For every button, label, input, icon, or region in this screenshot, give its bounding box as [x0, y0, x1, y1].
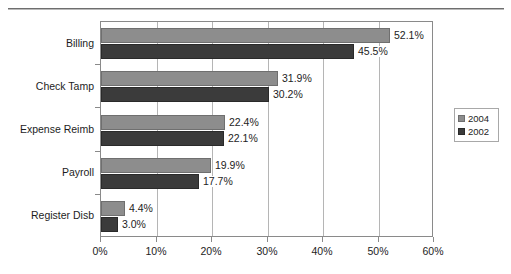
- bar-2002-check-tamp: [101, 87, 269, 102]
- x-axis-label: 0%: [92, 245, 107, 257]
- legend-label-2004: 2004: [468, 114, 489, 124]
- category-label-expense-reimb: Expense Reimb: [20, 123, 94, 135]
- legend-swatch-2002: [458, 128, 465, 135]
- category-axis-tick: [95, 107, 100, 108]
- category-label-billing: Billing: [66, 37, 94, 49]
- x-axis-tick: [433, 237, 434, 242]
- category-label-register-disb: Register Disb: [31, 209, 94, 221]
- x-axis-tick: [211, 237, 212, 242]
- chart-legend: 2004 2002: [454, 108, 499, 142]
- bar-2004-expense-reimb: [101, 115, 225, 130]
- x-axis-label: 40%: [311, 245, 332, 257]
- x-axis-label: 20%: [200, 245, 221, 257]
- x-axis-label: 30%: [256, 245, 277, 257]
- plot-area: 52.1%45.5%31.9%30.2%22.4%22.1%19.9%17.7%…: [100, 21, 433, 237]
- bar-value-label: 30.2%: [272, 89, 304, 100]
- category-label-check-tamp: Check Tamp: [36, 80, 94, 92]
- bar-value-label: 22.1%: [227, 133, 259, 144]
- bar-2004-check-tamp: [101, 71, 278, 86]
- bar-group: 31.9%30.2%: [101, 71, 432, 102]
- bar-value-label: 31.9%: [281, 73, 313, 84]
- x-axis-tick: [156, 237, 157, 242]
- bar-2002-payroll: [101, 174, 199, 189]
- bar-2004-billing: [101, 28, 390, 43]
- legend-swatch-2004: [458, 115, 465, 122]
- category-axis-tick: [95, 151, 100, 152]
- category-axis-tick: [95, 194, 100, 195]
- bar-value-label: 4.4%: [128, 203, 154, 214]
- bar-chart: 52.1%45.5%31.9%30.2%22.4%22.1%19.9%17.7%…: [0, 0, 511, 274]
- category-label-payroll: Payroll: [62, 166, 94, 178]
- bar-group: 52.1%45.5%: [101, 28, 432, 59]
- legend-item-2004: 2004: [458, 112, 496, 125]
- x-axis-tick: [267, 237, 268, 242]
- bar-value-label: 52.1%: [393, 30, 425, 41]
- x-axis-label: 50%: [367, 245, 388, 257]
- bar-value-label: 17.7%: [202, 176, 234, 187]
- bar-value-label: 3.0%: [121, 219, 147, 230]
- category-axis-tick: [95, 64, 100, 65]
- bar-group: 22.4%22.1%: [101, 115, 432, 146]
- bar-2002-register-disb: [101, 217, 118, 232]
- legend-item-2002: 2002: [458, 125, 496, 138]
- x-axis-label: 60%: [422, 245, 443, 257]
- x-axis-label: 10%: [145, 245, 166, 257]
- x-axis-tick: [322, 237, 323, 242]
- bar-value-label: 19.9%: [214, 160, 246, 171]
- bar-2004-register-disb: [101, 201, 125, 216]
- bar-value-label: 22.4%: [228, 117, 260, 128]
- bar-2002-billing: [101, 44, 354, 59]
- bar-2002-expense-reimb: [101, 131, 224, 146]
- bar-group: 4.4%3.0%: [101, 201, 432, 232]
- x-axis-tick: [378, 237, 379, 242]
- bar-group: 19.9%17.7%: [101, 158, 432, 189]
- x-axis-tick: [100, 237, 101, 242]
- bar-2004-payroll: [101, 158, 211, 173]
- bar-value-label: 45.5%: [357, 46, 389, 57]
- legend-label-2002: 2002: [468, 127, 489, 137]
